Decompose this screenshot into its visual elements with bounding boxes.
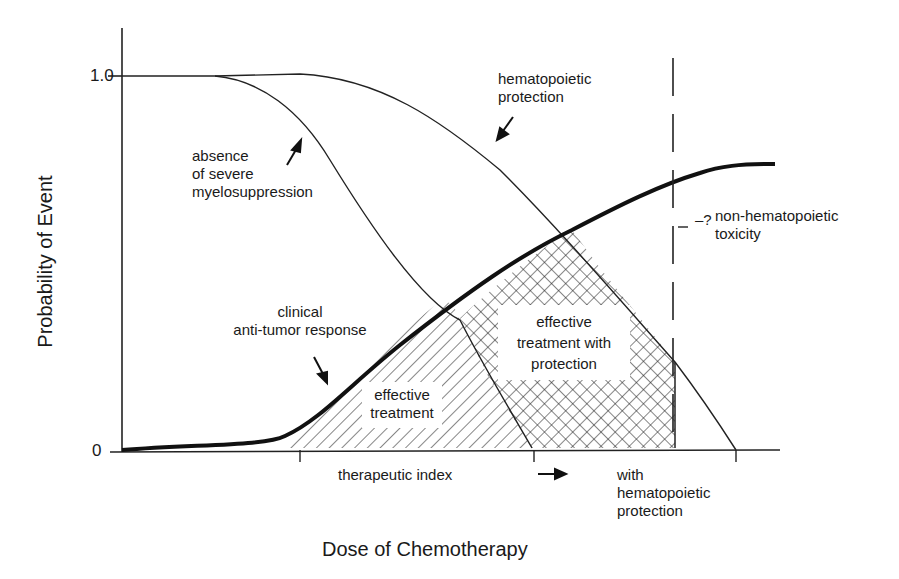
label-effective-treatment: effectivetreatment [362, 386, 442, 422]
label-question: –? [695, 211, 712, 229]
chart-canvas [0, 0, 899, 579]
label-therapeutic-index: therapeutic index [338, 466, 452, 484]
label-with-protection: withhematopoieticprotection [617, 466, 710, 520]
y-axis-title: Probability of Event [34, 162, 57, 362]
x-axis-title: Dose of Chemotherapy [322, 538, 528, 561]
label-effective-treatment-protection: effectivetreatment withprotection [498, 311, 630, 374]
x-axis [110, 450, 780, 452]
label-hematopoietic-protection: hematopoieticprotection [498, 70, 591, 106]
label-non-hematopoietic: non-hematopoietictoxicity [715, 207, 838, 243]
label-clinical-response: clinicalanti-tumor response [205, 303, 395, 339]
y-tick-bottom: 0 [92, 441, 101, 461]
label-absence: absenceof severemyelosuppression [192, 147, 313, 201]
y-tick-top: 1.0 [90, 66, 114, 86]
